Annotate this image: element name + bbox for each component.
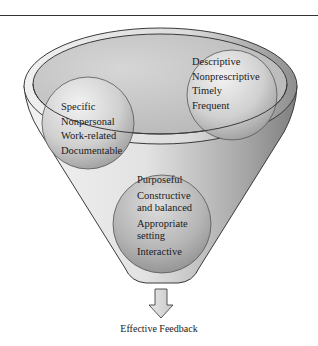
label-setting: setting — [137, 230, 192, 243]
label-descriptive: Descriptive — [192, 55, 260, 70]
funnel-diagram — [0, 0, 318, 346]
left-circle-labels: Specific Nonpersonal Work-related Docume… — [61, 100, 122, 158]
down-arrow-icon — [149, 289, 173, 318]
label-nonpersonal: Nonpersonal — [61, 115, 122, 130]
right-circle-labels: Descriptive Nonprescriptive Timely Frequ… — [192, 55, 260, 113]
label-timely: Timely — [192, 84, 260, 99]
label-nonprescriptive: Nonprescriptive — [192, 70, 260, 85]
bottom-circle-labels: Purposeful Constructive and balanced App… — [137, 174, 192, 258]
label-specific: Specific — [61, 100, 122, 115]
label-interactive: Interactive — [137, 246, 192, 259]
label-documentable: Documentable — [61, 144, 122, 159]
label-and-balanced: and balanced — [137, 202, 192, 215]
label-work-related: Work-related — [61, 129, 122, 144]
output-label: Effective Feedback — [0, 323, 318, 334]
label-purposeful: Purposeful — [137, 174, 192, 187]
label-constructive: Constructive — [137, 190, 192, 203]
label-frequent: Frequent — [192, 99, 260, 114]
label-appropriate: Appropriate — [137, 218, 192, 231]
